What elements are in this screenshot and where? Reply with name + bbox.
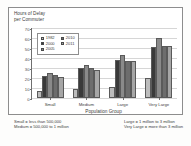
y-axis-tick-label: 20 <box>25 77 30 82</box>
legend-spacer <box>61 47 75 51</box>
legend-label: 2011 <box>66 42 75 46</box>
gridline: 0 <box>32 98 177 99</box>
y-axis-tick-label: 50 <box>25 47 30 52</box>
legend-swatch-icon <box>41 42 44 45</box>
chart-title: Hours of Delay per Commuter <box>14 11 45 22</box>
footnote-left-column: Small = less than 500,000Medium = 500,00… <box>14 119 69 130</box>
legend-label: 1982 <box>46 36 55 40</box>
y-axis-tick-mark <box>30 99 32 100</box>
bar-group: Very Large <box>141 28 177 98</box>
legend-item-1982: 1982 <box>41 36 55 40</box>
legend: 19822010200020112005 <box>37 33 79 55</box>
legend-swatch-icon <box>61 42 64 45</box>
x-axis-tick-mark <box>50 98 51 100</box>
y-axis-tick-label: 70 <box>25 27 30 32</box>
legend-swatch-icon <box>41 48 44 51</box>
y-axis-tick-label: 10 <box>25 87 30 92</box>
footnotes: Small = less than 500,000Medium = 500,00… <box>14 119 183 130</box>
legend-item-2010: 2010 <box>61 36 75 40</box>
legend-item-2005: 2005 <box>41 47 55 51</box>
y-axis-tick-label: 60 <box>25 37 30 42</box>
bar-group: Large <box>105 28 141 98</box>
y-axis-tick-label: 40 <box>25 57 30 62</box>
x-axis-label: Population Group <box>31 109 176 114</box>
y-axis-tick-label: 30 <box>25 67 30 72</box>
x-axis-tick-label: Medium <box>79 102 94 107</box>
chart-frame: Hours of Delay per Commuter 010203040506… <box>8 7 183 115</box>
x-axis-tick-label: Small <box>45 102 56 107</box>
x-axis-tick-mark <box>123 98 124 100</box>
x-axis-tick-mark <box>86 98 87 100</box>
x-axis-tick-mark <box>159 98 160 100</box>
footnote-line: Medium = 500,000 to 1 million <box>14 124 69 129</box>
legend-swatch-icon <box>61 37 64 40</box>
chart-page: Hours of Delay per Commuter 010203040506… <box>0 0 191 146</box>
footnote-line: Very Large = more than 3 million <box>124 124 183 129</box>
bar-2011-medium <box>94 70 99 98</box>
legend-label: 2005 <box>46 47 55 51</box>
x-axis-tick-label: Very Large <box>148 102 169 107</box>
legend-swatch-icon <box>41 37 44 40</box>
legend-label: 2010 <box>66 36 75 40</box>
x-axis-tick-label: Large <box>117 102 128 107</box>
bar-2011-small <box>58 77 63 98</box>
legend-item-2011: 2011 <box>61 42 75 46</box>
bar-2011-large <box>131 61 136 98</box>
footnote-right-column: Large = 1 million to 3 millionVery Large… <box>124 119 183 130</box>
bar-2011-very-large <box>167 46 172 98</box>
